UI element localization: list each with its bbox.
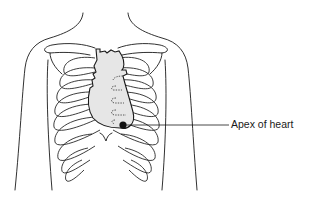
left-ribs	[54, 57, 100, 181]
anatomy-illustration	[0, 0, 324, 206]
sternum	[100, 133, 112, 141]
heart	[88, 49, 133, 129]
chest-diagram: Apex of heart	[0, 0, 324, 206]
apex-of-heart-label: Apex of heart	[231, 118, 293, 130]
heart-apex-marker	[119, 121, 126, 128]
